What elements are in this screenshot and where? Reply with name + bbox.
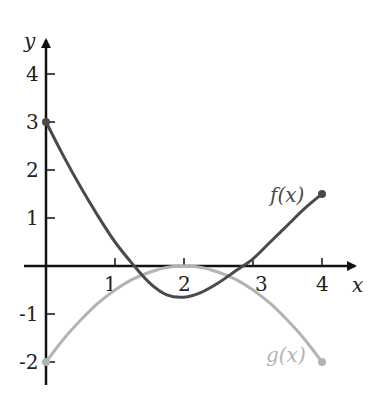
f-end-point (318, 190, 326, 198)
function-plot: 1 2 3 4 4 3 2 1 -1 -2 y x f(x) g(x) (0, 0, 377, 402)
x-tick-4: 4 (316, 272, 329, 296)
x-tick-2: 2 (178, 272, 191, 296)
y-tick-2: 2 (26, 158, 39, 182)
y-tick-4: 4 (26, 62, 39, 86)
y-axis-label: y (23, 29, 36, 53)
y-tick-1: 1 (26, 206, 39, 230)
y-tick-m2: -2 (19, 350, 38, 374)
y-ticks (46, 74, 55, 362)
y-tick-m1: -1 (19, 302, 38, 326)
g-start-point (42, 358, 50, 366)
f-start-point (42, 118, 50, 126)
x-axis-label: x (352, 273, 363, 297)
f-label: f(x) (268, 183, 304, 207)
y-tick-3: 3 (26, 110, 39, 134)
g-end-point (318, 358, 326, 366)
g-label: g(x) (266, 343, 306, 367)
